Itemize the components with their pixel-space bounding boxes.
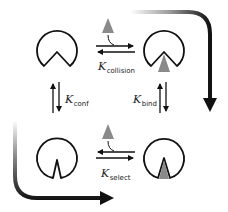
arrowhead-right-icon [100, 191, 114, 205]
select-equilibrium-arrows [96, 124, 135, 158]
conf-equilibrium-arrows [53, 82, 59, 113]
k-symbol: K [98, 60, 106, 73]
conformational-selection-pathway-arrow [15, 122, 114, 205]
collision-equilibrium-arrows [96, 18, 135, 52]
state-closed-bound [144, 139, 184, 179]
arrowhead-down-icon [203, 98, 217, 112]
k-subscript: bind [142, 100, 157, 108]
ligand-triangle-icon [102, 18, 114, 33]
state-open-bound [144, 31, 184, 72]
state-closed-unbound [37, 138, 77, 178]
k-symbol: K [65, 93, 73, 106]
k-subscript: select [110, 174, 131, 182]
k-subscript: conf [74, 100, 89, 108]
k-bind-label: Kbind [133, 94, 157, 108]
k-symbol: K [133, 93, 141, 106]
k-select-label: Kselect [101, 168, 131, 182]
k-collision-label: Kcollision [98, 61, 135, 75]
bind-equilibrium-arrows [160, 82, 166, 113]
state-open-unbound [37, 31, 77, 66]
k-subscript: collision [107, 67, 135, 75]
k-conf-label: Kconf [65, 94, 89, 108]
ligand-triangle-icon [102, 124, 114, 139]
k-symbol: K [101, 167, 109, 180]
